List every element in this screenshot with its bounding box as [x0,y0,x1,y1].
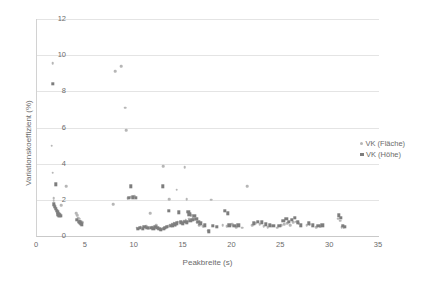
data-point-hoehe [80,223,83,226]
data-point-flaeche [114,70,117,73]
data-point-hoehe [252,222,255,225]
legend-item-hoehe: VK (Höhe) [360,149,405,160]
gridline-y-4 [37,164,379,165]
y-axis-tick-label: 6 [36,124,66,132]
data-point-flaeche [168,198,171,201]
x-axis-title: Peakbreite (s) [36,258,379,267]
data-point-hoehe [146,226,149,229]
data-point-hoehe [59,214,62,217]
data-point-hoehe [203,223,206,226]
chart-legend: VK (Fläche) VK (Höhe) [360,138,405,160]
data-point-hoehe [317,224,320,227]
gridline-y-12 [37,19,379,20]
data-point-flaeche [175,189,178,192]
y-axis-tick-label: 4 [36,160,66,168]
data-point-hoehe [215,225,218,228]
gridline-y-10 [37,55,379,56]
data-point-flaeche [210,199,213,202]
data-point-flaeche [125,129,128,132]
y-axis-tick-label: 12 [36,15,66,23]
x-axis-tick-label: 20 [216,240,246,249]
legend-item-flaeche: VK (Fläche) [360,138,405,149]
y-axis-tick-label: 0 [36,232,66,240]
data-point-hoehe [321,223,324,226]
data-point-hoehe [211,224,214,227]
data-point-hoehe [339,216,342,219]
data-point-hoehe [127,196,130,199]
data-point-flaeche [289,224,292,227]
data-point-flaeche [65,185,68,188]
data-point-hoehe [185,221,188,224]
x-axis-tick-label: 0 [21,240,51,249]
gridline-y-6 [37,128,379,129]
data-point-flaeche [112,203,115,206]
data-point-flaeche [120,65,123,68]
scatter-chart: Variationskoeffizient (%) Peakbreite (s)… [0,0,448,285]
x-axis-tick-label: 5 [70,240,100,249]
data-point-hoehe [134,196,137,199]
data-point-flaeche [51,171,54,174]
plot-area [36,19,379,237]
y-axis-title: Variationskoeffizient (%) [24,63,33,223]
data-point-hoehe [233,224,236,227]
data-point-hoehe [226,212,229,215]
legend-label-hoehe: VK (Höhe) [366,149,401,160]
data-point-flaeche [183,166,186,169]
x-axis-tick-label: 25 [265,240,295,249]
data-point-hoehe [268,223,271,226]
data-point-hoehe [161,185,164,188]
data-point-hoehe [311,223,314,226]
data-point-flaeche [162,165,165,168]
data-point-flaeche [185,198,188,201]
data-point-flaeche [124,106,127,109]
data-point-hoehe [237,223,240,226]
x-axis-tick-label: 35 [363,240,393,249]
data-point-flaeche [221,224,224,227]
y-axis-tick-label: 8 [36,87,66,95]
data-point-hoehe [260,221,263,224]
data-point-hoehe [228,223,231,226]
data-point-hoehe [177,211,180,214]
data-point-hoehe [343,225,346,228]
data-point-hoehe [191,218,194,221]
y-axis-tick-label: 2 [36,196,66,204]
data-point-hoehe [307,222,310,225]
data-point-hoehe [129,185,132,188]
data-point-hoehe [165,225,168,228]
data-point-hoehe [167,209,170,212]
data-point-flaeche [246,185,249,188]
x-axis-tick-label: 15 [168,240,198,249]
data-point-hoehe [54,183,57,186]
data-point-hoehe [175,222,178,225]
data-point-hoehe [198,222,201,225]
data-point-hoehe [278,224,281,227]
data-point-flaeche [241,227,244,230]
data-point-flaeche [51,62,54,65]
legend-marker-circle-icon [360,142,363,145]
data-point-flaeche [149,212,152,215]
data-point-hoehe [188,213,191,216]
legend-label-flaeche: VK (Fläche) [366,138,406,149]
data-point-hoehe [264,223,267,226]
data-point-hoehe [207,230,210,233]
data-point-flaeche [50,144,53,147]
legend-marker-square-icon [360,153,364,157]
gridline-y-8 [37,91,379,92]
x-axis-tick-label: 10 [119,240,149,249]
x-axis-tick-label: 30 [314,240,344,249]
data-point-hoehe [299,223,302,226]
data-point-hoehe [272,224,275,227]
data-point-flaeche [339,219,342,222]
data-point-flaeche [60,204,63,207]
data-point-hoehe [51,82,54,85]
gridline-y-2 [37,200,379,201]
data-point-hoehe [293,216,296,219]
y-axis-tick-label: 10 [36,51,66,59]
data-point-hoehe [256,220,259,223]
